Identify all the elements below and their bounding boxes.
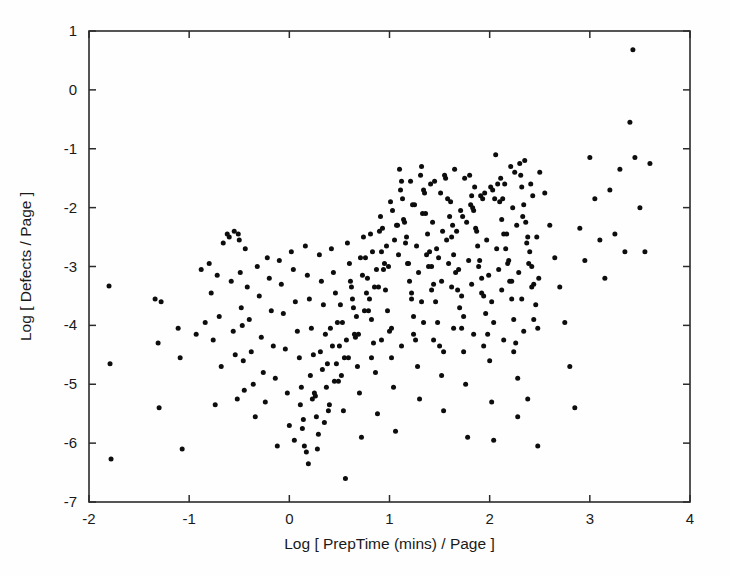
data-point bbox=[157, 405, 162, 410]
data-point bbox=[373, 370, 378, 375]
data-point bbox=[547, 223, 552, 228]
data-point bbox=[418, 173, 423, 178]
plot-canvas: -2-101234 10-1-2-3-4-5-6-7 Log [ PrepTim… bbox=[0, 0, 730, 576]
data-point bbox=[592, 196, 597, 201]
data-point bbox=[537, 170, 542, 175]
data-point bbox=[502, 182, 507, 187]
data-point bbox=[450, 223, 455, 228]
data-point bbox=[499, 217, 504, 222]
y-tick-label: -2 bbox=[64, 199, 77, 216]
data-point bbox=[251, 382, 256, 387]
data-point bbox=[437, 343, 442, 348]
data-point bbox=[379, 249, 384, 254]
data-point bbox=[440, 229, 445, 234]
data-point bbox=[419, 164, 424, 169]
data-point bbox=[365, 276, 370, 281]
data-point bbox=[449, 235, 454, 240]
data-point bbox=[232, 229, 237, 234]
data-point bbox=[271, 343, 276, 348]
data-point bbox=[526, 261, 531, 266]
data-point bbox=[346, 355, 351, 360]
data-point bbox=[259, 335, 264, 340]
data-point bbox=[534, 235, 539, 240]
x-tick-label: 2 bbox=[485, 510, 493, 527]
data-point bbox=[180, 447, 185, 452]
data-point bbox=[391, 385, 396, 390]
data-point bbox=[340, 320, 345, 325]
data-point bbox=[404, 235, 409, 240]
data-point bbox=[293, 299, 298, 304]
data-point bbox=[562, 320, 567, 325]
y-tick-label: 1 bbox=[69, 22, 77, 39]
data-point bbox=[356, 332, 361, 337]
data-point bbox=[527, 249, 532, 254]
data-point bbox=[390, 208, 395, 213]
data-point bbox=[470, 205, 475, 210]
data-point bbox=[480, 196, 485, 201]
data-point bbox=[419, 299, 424, 304]
y-tick-label: -4 bbox=[64, 316, 77, 333]
data-point bbox=[536, 276, 541, 281]
data-point bbox=[287, 423, 292, 428]
data-point bbox=[501, 338, 506, 343]
data-point bbox=[441, 408, 446, 413]
data-point bbox=[361, 235, 366, 240]
data-point bbox=[371, 341, 376, 346]
y-axis-title: Log [ Defects / Page ] bbox=[17, 192, 34, 341]
data-point bbox=[253, 414, 258, 419]
data-point bbox=[448, 199, 453, 204]
data-point bbox=[349, 285, 354, 290]
data-point bbox=[481, 343, 486, 348]
data-point bbox=[393, 429, 398, 434]
data-point bbox=[647, 161, 652, 166]
data-point bbox=[424, 252, 429, 257]
data-point bbox=[451, 252, 456, 257]
data-point bbox=[491, 320, 496, 325]
data-point bbox=[567, 364, 572, 369]
y-tick-label: -5 bbox=[64, 375, 77, 392]
data-point bbox=[511, 317, 516, 322]
data-point bbox=[524, 240, 529, 245]
data-point bbox=[529, 285, 534, 290]
data-point bbox=[530, 193, 535, 198]
data-point bbox=[330, 343, 335, 348]
data-point bbox=[469, 282, 474, 287]
data-point bbox=[466, 258, 471, 263]
data-point bbox=[433, 299, 438, 304]
data-point bbox=[247, 317, 252, 322]
data-point bbox=[491, 438, 496, 443]
data-point bbox=[622, 249, 627, 254]
data-point bbox=[415, 364, 420, 369]
data-point bbox=[472, 185, 477, 190]
data-point bbox=[509, 279, 514, 284]
x-axis-title: Log [ PrepTime (mins) / Page ] bbox=[284, 535, 494, 552]
data-point bbox=[240, 323, 245, 328]
data-point bbox=[439, 279, 444, 284]
data-point bbox=[630, 47, 635, 52]
data-point bbox=[379, 338, 384, 343]
data-point bbox=[535, 326, 540, 331]
data-point bbox=[108, 361, 113, 366]
data-point bbox=[452, 167, 457, 172]
data-point bbox=[314, 414, 319, 419]
data-point bbox=[477, 258, 482, 263]
data-point bbox=[199, 267, 204, 272]
data-point bbox=[474, 229, 479, 234]
data-point bbox=[451, 326, 456, 331]
data-point bbox=[348, 279, 353, 284]
data-point bbox=[400, 196, 405, 201]
data-point bbox=[519, 185, 524, 190]
data-point bbox=[494, 246, 499, 251]
data-point bbox=[459, 293, 464, 298]
data-point bbox=[320, 367, 325, 372]
data-point bbox=[617, 167, 622, 172]
data-point bbox=[327, 402, 332, 407]
x-tick-label: -1 bbox=[182, 510, 195, 527]
data-point bbox=[358, 255, 363, 260]
data-point bbox=[504, 232, 509, 237]
data-point bbox=[557, 285, 562, 290]
data-point bbox=[442, 173, 447, 178]
data-point bbox=[509, 296, 514, 301]
data-point bbox=[479, 276, 484, 281]
data-point bbox=[275, 444, 280, 449]
